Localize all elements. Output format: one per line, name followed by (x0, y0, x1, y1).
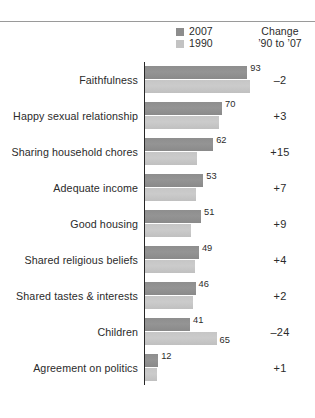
bar-fill-2007 (145, 66, 247, 79)
bar-value-2007: 70 (225, 98, 235, 111)
bar-value-2007: 12 (161, 350, 171, 363)
row-label: Sharing household chores (11, 134, 138, 170)
bar-fill-2007 (145, 354, 158, 367)
bar-fill-1990 (145, 368, 157, 381)
bar-value-2007: 62 (216, 134, 226, 147)
chart-figure: 2007 1990 Change ’90 to ’07 Faithfulness… (0, 0, 315, 418)
bar-value-2007: 51 (204, 206, 214, 219)
bar-fill-2007 (145, 246, 199, 259)
row-label: Agreement on politics (33, 350, 138, 386)
bar-2007: 53 (145, 174, 203, 187)
bar-fill-2007 (145, 174, 203, 187)
row-label: Children (97, 314, 138, 350)
header-divider (0, 21, 315, 22)
chart-legend: 2007 1990 (176, 26, 246, 50)
bar-1990 (145, 80, 250, 93)
bar-1990 (145, 296, 193, 309)
legend-swatch-2007-icon (176, 28, 184, 36)
bar-value-2007: 41 (193, 314, 203, 327)
bar-fill-1990 (145, 80, 250, 93)
bar-1990 (145, 224, 191, 237)
bar-fill-2007 (145, 102, 222, 115)
change-column-header: Change ’90 to ’07 (248, 25, 312, 49)
bar-value-2007: 53 (206, 170, 216, 183)
chart-rows: Faithfulness 93 –2 Happy sexual relation… (0, 62, 315, 386)
change-value: –2 (248, 62, 312, 98)
bar-2007: 93 (145, 66, 247, 79)
bar-1990 (145, 116, 219, 129)
bar-1990 (145, 368, 157, 381)
bar-2007: 70 (145, 102, 222, 115)
bar-fill-2007 (145, 282, 196, 295)
row-label: Good housing (70, 206, 138, 242)
chart-row: Faithfulness 93 –2 (0, 62, 315, 98)
bar-2007: 46 (145, 282, 196, 295)
bar-fill-2007 (145, 318, 190, 331)
bar-1990: 65 (145, 332, 217, 345)
chart-row: Shared religious beliefs 49 +4 (0, 242, 315, 278)
bar-fill-1990 (145, 152, 197, 165)
chart-row: Shared tastes & interests 46 +2 (0, 278, 315, 314)
bar-value-2007: 49 (202, 242, 212, 255)
bar-2007: 49 (145, 246, 199, 259)
change-header-line1: Change (248, 25, 312, 37)
chart-row: Children 41 65 –24 (0, 314, 315, 350)
change-value: –24 (248, 314, 312, 350)
legend-item-1990: 1990 (176, 38, 246, 49)
change-value: +4 (248, 242, 312, 278)
chart-row: Sharing household chores 62 +15 (0, 134, 315, 170)
chart-row: Agreement on politics 12 +1 (0, 350, 315, 386)
bar-value-1990: 65 (220, 334, 230, 347)
bar-2007: 62 (145, 138, 213, 151)
legend-label-2007: 2007 (189, 26, 213, 37)
legend-label-1990: 1990 (189, 38, 213, 49)
chart-row: Happy sexual relationship 70 +3 (0, 98, 315, 134)
bar-2007: 41 (145, 318, 190, 331)
bar-fill-1990 (145, 260, 195, 273)
bar-2007: 12 (145, 354, 158, 367)
bar-1990 (145, 152, 197, 165)
row-label: Shared religious beliefs (25, 242, 139, 278)
change-value: +15 (248, 134, 312, 170)
bar-fill-1990 (145, 188, 196, 201)
bar-fill-2007 (145, 210, 201, 223)
chart-row: Good housing 51 +9 (0, 206, 315, 242)
change-value: +3 (248, 98, 312, 134)
row-label: Adequate income (53, 170, 138, 206)
legend-swatch-1990-icon (176, 40, 184, 48)
chart-row: Adequate income 53 +7 (0, 170, 315, 206)
bar-1990 (145, 188, 196, 201)
change-value: +2 (248, 278, 312, 314)
bar-2007: 51 (145, 210, 201, 223)
row-label: Shared tastes & interests (16, 278, 138, 314)
bar-fill-1990 (145, 332, 217, 345)
bar-value-2007: 46 (199, 278, 209, 291)
row-label: Happy sexual relationship (13, 98, 138, 134)
bar-fill-1990 (145, 116, 219, 129)
change-header-line2: ’90 to ’07 (248, 37, 312, 49)
change-value: +7 (248, 170, 312, 206)
change-value: +1 (248, 350, 312, 386)
bar-1990 (145, 260, 195, 273)
bar-fill-2007 (145, 138, 213, 151)
bar-fill-1990 (145, 224, 191, 237)
row-label: Faithfulness (79, 62, 138, 98)
legend-item-2007: 2007 (176, 26, 246, 37)
bar-fill-1990 (145, 296, 193, 309)
change-value: +9 (248, 206, 312, 242)
